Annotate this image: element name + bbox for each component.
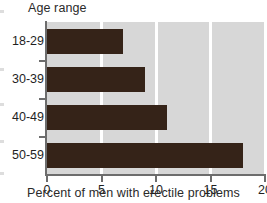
bar-40-49 bbox=[47, 105, 167, 130]
bar-row bbox=[47, 67, 265, 92]
scan-artifact bbox=[0, 140, 4, 143]
y-axis-tick bbox=[39, 98, 46, 100]
bar-50-59 bbox=[47, 143, 243, 168]
x-axis-tick bbox=[46, 176, 48, 182]
plot-area bbox=[47, 22, 265, 174]
chart-title: Age range bbox=[28, 1, 87, 15]
y-axis-tick bbox=[39, 60, 46, 62]
y-axis-label-18-29: 18-29 bbox=[12, 34, 44, 48]
bar-30-39 bbox=[47, 67, 145, 92]
bar-row bbox=[47, 105, 265, 130]
x-axis-tick bbox=[155, 176, 157, 182]
x-axis-tick bbox=[210, 176, 212, 182]
scan-artifact bbox=[0, 103, 4, 106]
x-axis-caption: Percent of men with erectile problems bbox=[0, 186, 267, 200]
y-axis-label-50-59: 50-59 bbox=[12, 148, 44, 162]
x-axis-tick bbox=[264, 176, 266, 182]
scan-artifact bbox=[0, 10, 4, 13]
scan-artifact bbox=[0, 172, 4, 175]
scan-artifact bbox=[0, 68, 4, 71]
bar-row bbox=[47, 29, 265, 54]
y-axis-label-40-49: 40-49 bbox=[12, 110, 44, 124]
x-axis-tick bbox=[101, 176, 103, 182]
y-axis-tick bbox=[39, 136, 46, 138]
bar-18-29 bbox=[47, 29, 123, 54]
bar-row bbox=[47, 143, 265, 168]
y-axis-label-30-39: 30-39 bbox=[12, 72, 44, 86]
bar-chart-figure: Age range 18-2930-3940-4950-59 05101520 … bbox=[0, 0, 267, 203]
